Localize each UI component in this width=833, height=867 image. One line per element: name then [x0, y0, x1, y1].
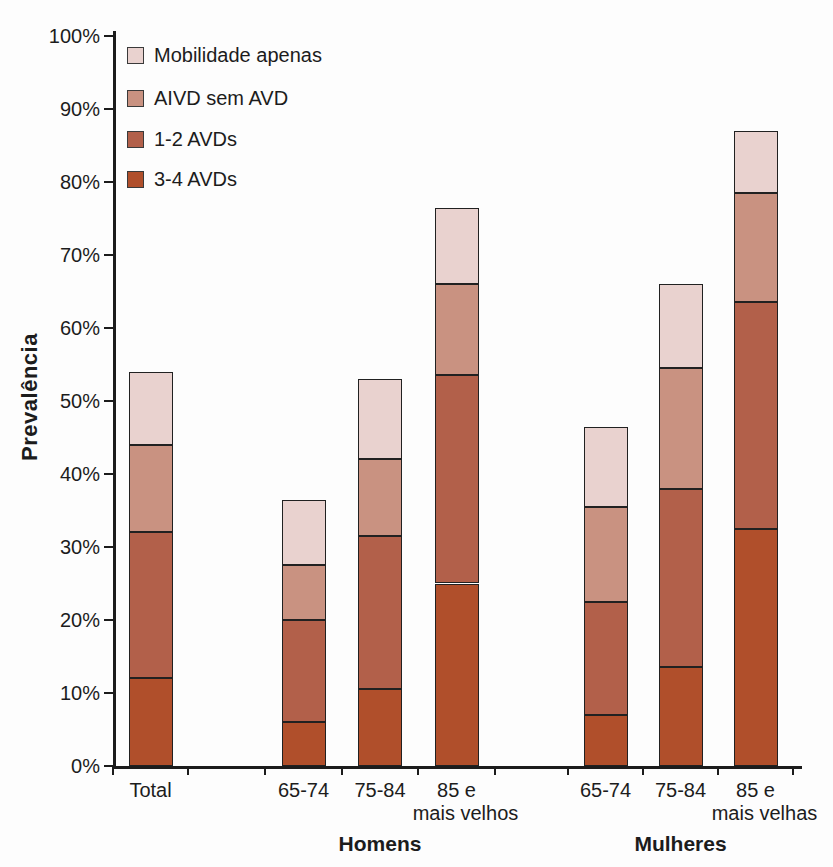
legend-item: Mobilidade apenas: [127, 44, 322, 67]
stacked-bar-chart-figure: Prevalência 0%10%20%30%40%50%60%70%80%90…: [0, 0, 833, 867]
x-category-label: 65-74: [580, 779, 631, 802]
bar-segment: [659, 368, 703, 488]
legend-item: 3-4 AVDs: [127, 168, 237, 191]
y-axis-tick: [104, 254, 114, 257]
x-category-label: 85 e: [437, 779, 476, 802]
x-category-label: 75-84: [354, 779, 405, 802]
x-category-label: 85 e: [736, 779, 775, 802]
x-axis-tick: [417, 766, 420, 775]
x-axis-tick: [341, 766, 344, 775]
bar-segment: [734, 193, 778, 303]
legend-item-label: AIVD sem AVD: [154, 87, 288, 110]
x-category-label-line2: mais velhas: [712, 802, 818, 825]
y-axis-tick: [104, 327, 114, 330]
y-axis-tick-label: 30%: [30, 536, 100, 558]
bar-segment: [659, 489, 703, 668]
y-axis-tick-label: 100%: [30, 25, 100, 47]
legend-item: 1-2 AVDs: [127, 128, 237, 151]
x-axis-tick: [792, 766, 795, 775]
x-category-label-line2: mais velhos: [413, 802, 519, 825]
x-axis-tick: [494, 766, 497, 775]
x-group-label: Mulheres: [634, 832, 726, 856]
y-axis-tick: [104, 546, 114, 549]
x-axis-tick: [642, 766, 645, 775]
bar-segment: [435, 584, 479, 767]
legend-swatch-2: [127, 90, 144, 107]
bar-segment: [129, 678, 173, 766]
x-axis-tick: [567, 766, 570, 775]
y-axis-tick: [104, 35, 114, 38]
bar-segment: [358, 536, 402, 689]
legend-swatch-1: [127, 47, 144, 64]
legend-swatch-3: [127, 131, 144, 148]
y-axis-tick-label: 50%: [30, 390, 100, 412]
bar-segment: [734, 131, 778, 193]
bar-segment: [435, 284, 479, 375]
y-axis-tick-label: 10%: [30, 682, 100, 704]
x-axis-tick: [187, 766, 190, 775]
y-axis-tick: [104, 619, 114, 622]
y-axis-tick: [104, 692, 114, 695]
bar-segment: [358, 689, 402, 766]
bar-segment: [435, 208, 479, 285]
bar-segment: [584, 715, 628, 766]
y-axis-tick: [104, 181, 114, 184]
bar-segment: [358, 459, 402, 536]
bar-segment: [734, 529, 778, 766]
x-axis-line: [113, 766, 802, 769]
y-axis-tick-label: 90%: [30, 98, 100, 120]
bar-segment: [129, 445, 173, 533]
x-category-label: Total: [129, 779, 171, 802]
bar-segment: [659, 284, 703, 368]
x-category-label: 65-74: [278, 779, 329, 802]
bar-segment: [358, 379, 402, 459]
legend-item-label: Mobilidade apenas: [154, 44, 322, 67]
x-axis-tick: [112, 766, 115, 775]
bar-segment: [282, 620, 326, 722]
x-category-label: 75-84: [655, 779, 706, 802]
y-axis-tick-label: 60%: [30, 317, 100, 339]
legend-item: AIVD sem AVD: [127, 87, 288, 110]
bar-segment: [659, 667, 703, 766]
x-axis-tick: [264, 766, 267, 775]
y-axis-tick-label: 70%: [30, 244, 100, 266]
bar-segment: [584, 602, 628, 715]
y-axis-tick: [104, 108, 114, 111]
bar-segment: [435, 375, 479, 583]
x-axis-tick: [717, 766, 720, 775]
y-axis-tick-label: 80%: [30, 171, 100, 193]
y-axis-tick-label: 0%: [30, 755, 100, 777]
y-axis-tick: [104, 400, 114, 403]
legend-swatch-4: [127, 171, 144, 188]
y-axis-tick: [104, 473, 114, 476]
bar-segment: [734, 302, 778, 528]
legend-item-label: 3-4 AVDs: [154, 168, 237, 191]
bar-segment: [282, 500, 326, 566]
bar-segment: [129, 532, 173, 678]
bar-segment: [282, 722, 326, 766]
bar-segment: [129, 372, 173, 445]
y-axis-tick-label: 20%: [30, 609, 100, 631]
legend-item-label: 1-2 AVDs: [154, 128, 237, 151]
x-group-label: Homens: [339, 832, 422, 856]
bar-segment: [584, 427, 628, 507]
y-axis-tick-label: 40%: [30, 463, 100, 485]
bar-segment: [282, 565, 326, 620]
bar-segment: [584, 507, 628, 602]
